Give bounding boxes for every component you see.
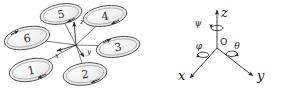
frame-axis-y xyxy=(217,48,253,76)
frame-axis-x xyxy=(190,48,217,78)
rotor-3: 3 xyxy=(95,33,142,60)
frame-axis-label-x: x xyxy=(178,68,186,83)
rotor-5: 5 xyxy=(39,1,84,28)
figure-svg: 6 5 4 3 xyxy=(0,0,282,90)
arc-theta xyxy=(226,51,237,56)
frame-axis-label-y: y xyxy=(256,68,265,83)
body-axis-label-z: z xyxy=(79,18,84,26)
angle-label-theta: θ xyxy=(234,41,240,51)
figure-canvas: 6 5 4 3 xyxy=(0,0,282,90)
rotor-1: 1 xyxy=(7,55,55,86)
angle-label-psi: ψ xyxy=(194,18,202,28)
frame-origin-label: O xyxy=(220,37,227,47)
body-frame-axes xyxy=(57,22,84,57)
rotor-4: 4 xyxy=(82,2,129,29)
body-axis-label-y: y xyxy=(86,48,92,56)
body-axis-label-x: x xyxy=(55,52,59,60)
rotor-2: 2 xyxy=(62,60,109,88)
angle-label-phi: φ xyxy=(196,41,203,51)
rotor-6: 6 xyxy=(2,22,52,53)
frame-axis-label-z: z xyxy=(220,5,228,20)
arc-phi xyxy=(198,52,209,57)
rotation-arcs xyxy=(198,25,237,57)
body-axis-y xyxy=(76,45,84,57)
